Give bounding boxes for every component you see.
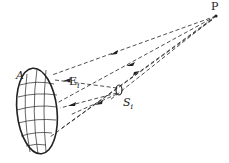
diagram-canvas: [0, 0, 229, 163]
label-s: Si: [123, 97, 133, 111]
label-e: Ei: [69, 76, 80, 90]
source-ring: [116, 85, 122, 95]
label-p: P: [211, 1, 218, 12]
label-a: A: [16, 70, 24, 81]
point-p-dot: [214, 14, 217, 17]
